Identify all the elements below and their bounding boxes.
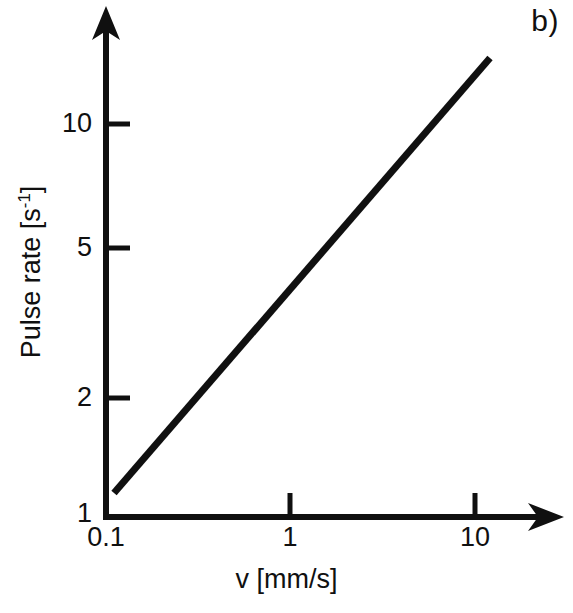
x-tick-label-10: 10 [430,524,520,551]
panel-label: b) [531,6,559,36]
y-axis-title-tail: ] [16,186,46,194]
x-tick-label-1: 1 [245,524,335,551]
y-axis-title-exponent: -1 [15,193,34,208]
data-line-pulse-rate [114,58,490,493]
y-axis-title-container: Pulse rate [s-1] [18,72,58,472]
figure-panel-b: b) 10 5 2 1 0.1 1 10 v [mm/s] Pulse rate… [0,0,573,613]
y-axis-title-main: Pulse rate [s [16,208,46,358]
y-axis-title: Pulse rate [s-1] [18,186,45,358]
x-tick-label-0-1: 0.1 [61,524,151,551]
x-axis-title: v [mm/s] [0,566,573,593]
y-tick-label-1: 1 [32,500,92,527]
